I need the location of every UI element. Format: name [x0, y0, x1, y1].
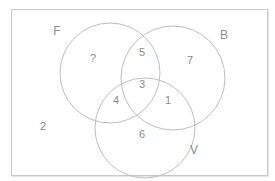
- region-f-and-b-value: 5: [139, 47, 145, 58]
- set-label-v: V: [190, 144, 198, 156]
- set-label-b: B: [220, 29, 228, 41]
- venn-diagram: F B V ? 5 7 3 4 1 6 2: [0, 0, 275, 181]
- region-b-only-value: 7: [187, 55, 193, 66]
- region-b-and-v-value: 1: [165, 95, 171, 106]
- set-circle-f: [60, 23, 160, 123]
- set-label-f: F: [53, 25, 60, 37]
- set-circle-b: [121, 26, 225, 130]
- venn-circles: [0, 0, 275, 181]
- region-outside-value: 2: [40, 121, 46, 132]
- region-f-only-value: ?: [90, 53, 96, 64]
- region-v-only-value: 6: [139, 129, 145, 140]
- region-all-three-value: 3: [139, 79, 145, 90]
- region-f-and-v-value: 4: [113, 95, 119, 106]
